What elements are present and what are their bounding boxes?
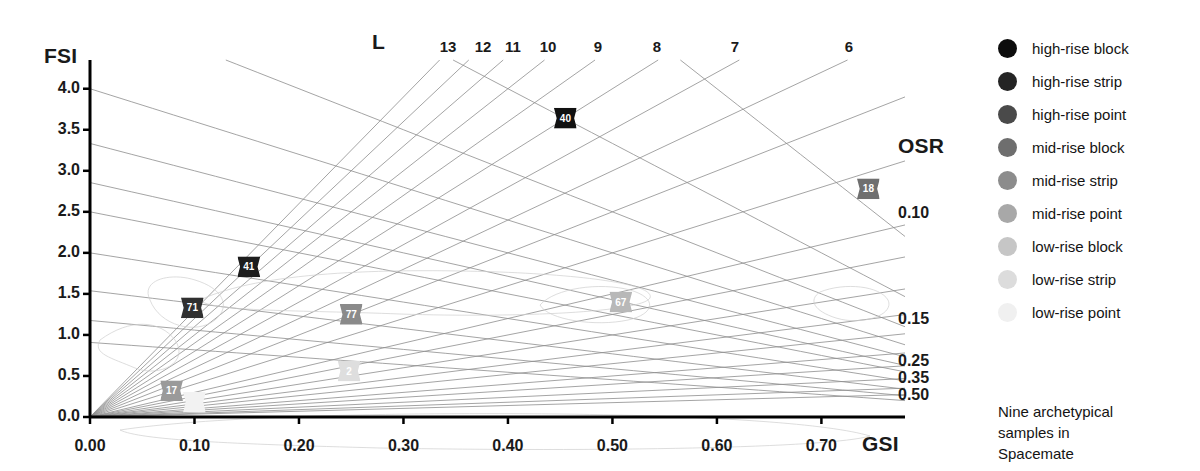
x-tick-label-0.60: 0.60: [701, 437, 732, 455]
legend-item-label: mid-rise strip: [1032, 172, 1118, 189]
l-line-2.5: [90, 257, 905, 417]
l-line-12: [90, 60, 469, 417]
x-tick-label-0.70: 0.70: [806, 437, 837, 455]
legend-swatch-icon: [998, 204, 1017, 223]
l-line-5: [90, 97, 905, 417]
legend-swatch-icon: [998, 72, 1017, 91]
osr-value-label-0.15: 0.15: [898, 310, 929, 328]
l-value-label-11: 11: [505, 38, 521, 55]
osr-line-0.35: [90, 183, 905, 366]
legend-item-label: mid-rise point: [1032, 205, 1122, 222]
legend-item-low-rise-point[interactable]: low-rise point: [998, 296, 1198, 329]
legend-swatch-icon: [998, 303, 1017, 322]
l-line-11: [90, 60, 503, 417]
data-point-label: 77: [346, 309, 357, 319]
l-line-4: [90, 161, 905, 417]
data-point-label: 17: [166, 386, 177, 396]
l-value-label-12: 12: [475, 38, 492, 55]
osr-value-label-0.50: 0.50: [898, 386, 929, 404]
l-line-1.6: [90, 315, 905, 417]
l-value-label-8: 8: [653, 38, 661, 55]
legend-item-label: low-rise block: [1032, 238, 1123, 255]
data-point-9[interactable]: 9: [183, 392, 206, 413]
x-tick-label-0.50: 0.50: [597, 437, 628, 455]
l-value-label-13: 13: [440, 38, 457, 55]
data-point-18[interactable]: 18: [857, 178, 880, 199]
l-line-7: [90, 60, 739, 417]
y-tick-label-1.5: 1.5: [20, 284, 80, 302]
x-tick-label-0.20: 0.20: [283, 437, 314, 455]
x-axis-title: GSI: [862, 432, 899, 456]
osr-line-1.1: [90, 342, 905, 400]
osr-value-label-0.10: 0.10: [898, 204, 929, 222]
data-point-label: 41: [243, 262, 254, 272]
y-tick-label-4.0: 4.0: [20, 79, 80, 97]
y-tick-label-2.0: 2.0: [20, 243, 80, 261]
data-point-label: 71: [187, 303, 198, 313]
y-axis-title: FSI: [44, 44, 77, 68]
osr-axis-title: OSR: [898, 134, 944, 158]
legend-swatch-icon: [998, 39, 1017, 58]
legend-item-label: high-rise strip: [1032, 73, 1122, 90]
osr-line-0.25: [90, 89, 905, 345]
l-value-label-9: 9: [594, 38, 602, 55]
y-tick-label-3.5: 3.5: [20, 120, 80, 138]
data-point-label: 40: [560, 113, 571, 123]
sample-cloud-4: [814, 286, 889, 320]
data-point-label: 67: [615, 297, 626, 307]
spacemate-diagram: FSIGSILOSR0.00.51.01.52.02.53.03.54.00.0…: [0, 0, 1200, 471]
y-tick-label-2.5: 2.5: [20, 202, 80, 220]
legend-item-mid-rise-strip[interactable]: mid-rise strip: [998, 164, 1198, 197]
data-point-label: 18: [863, 184, 874, 194]
legend-item-high-rise-strip[interactable]: high-rise strip: [998, 65, 1198, 98]
legend-swatch-icon: [998, 105, 1017, 124]
legend: high-rise blockhigh-rise striphigh-rise …: [998, 32, 1198, 329]
osr-line-0.15: [453, 60, 905, 297]
data-point-17[interactable]: 17: [160, 380, 183, 401]
l-line-0.45: [90, 388, 905, 417]
osr-line-0.85: [90, 320, 905, 395]
legend-item-label: mid-rise block: [1032, 139, 1125, 156]
legend-swatch-icon: [998, 237, 1017, 256]
data-point-67[interactable]: 67: [609, 292, 632, 313]
legend-item-label: low-rise point: [1032, 304, 1120, 321]
caption: Nine archetypical samples in Spacemate: [998, 401, 1188, 464]
data-point-77[interactable]: 77: [340, 304, 363, 325]
plot-canvas: [0, 0, 980, 471]
legend-swatch-icon: [998, 138, 1017, 157]
osr-line-0.1: [680, 60, 905, 236]
data-point-2[interactable]: 2: [338, 361, 361, 382]
l-value-label-7: 7: [731, 38, 739, 55]
data-point-40[interactable]: 40: [554, 108, 577, 129]
caption-line-1: Nine archetypical: [998, 401, 1188, 422]
y-tick-label-0.5: 0.5: [20, 366, 80, 384]
l-line-1: [90, 353, 905, 417]
x-tick-label-0.40: 0.40: [492, 437, 523, 455]
plot-area: FSIGSILOSR0.00.51.01.52.02.53.03.54.00.0…: [0, 0, 980, 471]
l-line-0.8: [90, 366, 905, 417]
legend-item-high-rise-block[interactable]: high-rise block: [998, 32, 1198, 65]
y-tick-label-3.0: 3.0: [20, 161, 80, 179]
legend-item-low-rise-strip[interactable]: low-rise strip: [998, 263, 1198, 296]
data-point-label: 2: [346, 366, 352, 376]
legend-item-mid-rise-block[interactable]: mid-rise block: [998, 131, 1198, 164]
data-point-label: 9: [192, 397, 198, 407]
legend-item-label: high-rise block: [1032, 40, 1129, 57]
data-point-41[interactable]: 41: [237, 256, 260, 277]
osr-line-0.3: [90, 143, 905, 356]
x-tick-label-0.10: 0.10: [179, 437, 210, 455]
caption-line-3: Spacemate: [998, 443, 1188, 464]
legend-swatch-icon: [998, 270, 1017, 289]
legend-item-high-rise-point[interactable]: high-rise point: [998, 98, 1198, 131]
l-line-6: [90, 60, 848, 417]
legend-item-low-rise-block[interactable]: low-rise block: [998, 230, 1198, 263]
osr-value-label-0.35: 0.35: [898, 369, 929, 387]
data-point-71[interactable]: 71: [181, 297, 204, 318]
y-tick-label-1.0: 1.0: [20, 325, 80, 343]
l-line-1.3: [90, 334, 905, 417]
legend-item-label: high-rise point: [1032, 106, 1126, 123]
l-value-label-6: 6: [845, 38, 853, 55]
caption-line-2: samples in: [998, 422, 1188, 443]
x-tick-label-0.30: 0.30: [388, 437, 419, 455]
legend-item-mid-rise-point[interactable]: mid-rise point: [998, 197, 1198, 230]
